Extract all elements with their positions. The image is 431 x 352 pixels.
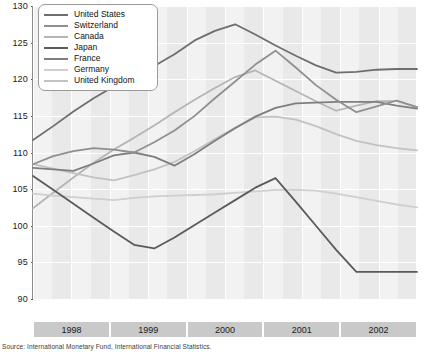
series-line-france	[33, 102, 417, 171]
chart-page: 9095100105110115120125130 19981999200020…	[0, 0, 431, 352]
x-axis-year-label: 2002	[341, 322, 416, 337]
legend-swatch-canada	[44, 36, 68, 38]
y-axis-tick-label: 120	[12, 75, 28, 84]
legend-item-france[interactable]: France	[44, 53, 152, 64]
series-line-canada	[33, 70, 417, 208]
legend-item-switzerland[interactable]: Switzerland	[44, 20, 152, 31]
y-axis-tick-label: 95	[18, 258, 28, 267]
x-axis-year-label: 1998	[34, 322, 109, 337]
y-axis-tick-label: 100	[12, 222, 28, 231]
source-note: Source: International Monetary Fund, Int…	[2, 343, 212, 350]
x-axis-year-label: 2000	[188, 322, 263, 337]
y-axis-tick-label: 105	[12, 185, 28, 194]
legend-swatch-united-kingdom	[44, 80, 68, 82]
x-axis-year-bands: 19981999200020012002	[33, 322, 417, 337]
series-line-japan	[33, 176, 417, 272]
x-axis-year-label: 1999	[111, 322, 186, 337]
legend-label-japan: Japan	[74, 42, 97, 53]
legend-swatch-germany	[44, 69, 68, 71]
y-axis-tick-label: 90	[18, 295, 28, 304]
series-line-germany	[33, 190, 417, 208]
legend-swatch-switzerland	[44, 25, 68, 27]
legend-label-united-states: United States	[74, 9, 125, 20]
y-axis-tick-label: 130	[12, 2, 28, 11]
legend-label-switzerland: Switzerland	[74, 20, 118, 31]
legend-item-canada[interactable]: Canada	[44, 31, 152, 42]
y-axis-tick-label: 110	[13, 149, 28, 158]
legend-swatch-united-states	[44, 14, 68, 16]
chart-legend: United States Switzerland Canada Japan F…	[38, 4, 158, 91]
legend-label-france: France	[74, 53, 100, 64]
y-axis-tick-label: 125	[12, 39, 28, 48]
legend-label-germany: Germany	[74, 64, 109, 75]
legend-item-japan[interactable]: Japan	[44, 42, 152, 53]
legend-label-canada: Canada	[74, 31, 104, 42]
legend-item-united-kingdom[interactable]: United Kingdom	[44, 75, 152, 86]
y-axis-labels: 9095100105110115120125130	[0, 0, 31, 299]
legend-item-united-states[interactable]: United States	[44, 9, 152, 20]
horizontal-gridline	[33, 299, 417, 300]
legend-label-united-kingdom: United Kingdom	[74, 75, 134, 86]
legend-swatch-japan	[44, 47, 68, 49]
legend-swatch-france	[44, 58, 68, 60]
x-axis-year-label: 2001	[264, 322, 339, 337]
y-axis-tick-label: 115	[13, 112, 28, 121]
legend-item-germany[interactable]: Germany	[44, 64, 152, 75]
